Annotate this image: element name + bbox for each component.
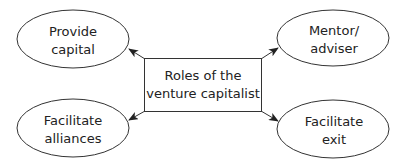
node-mentor-adviser-line1: Mentor/ [309,23,360,38]
node-facilitate-exit-line1: Facilitate [305,114,363,129]
center-title-line1: Roles of the [165,68,242,83]
node-mentor-adviser: Mentor/ adviser [277,10,389,66]
node-provide-capital: Provide capital [17,10,129,68]
node-facilitate-alliances-line1: Facilitate [44,113,102,128]
node-provide-capital-line1: Provide [49,24,97,39]
node-facilitate-alliances-line2: alliances [45,131,102,146]
arrow-to-facilitate-exit [261,111,278,121]
node-facilitate-exit-line2: exit [322,132,346,147]
node-facilitate-exit: Facilitate exit [277,100,389,158]
node-provide-capital-line2: capital [51,42,95,57]
center-title-line2: venture capitalist [146,86,260,101]
arrow-to-mentor-adviser [261,48,278,59]
center-box: Roles of the venture capitalist [145,59,262,112]
node-facilitate-alliances: Facilitate alliances [17,99,129,157]
roles-diagram: Roles of the venture capitalist Provide … [0,0,404,166]
arrow-to-provide-capital [129,49,145,59]
node-mentor-adviser-line2: adviser [310,41,358,56]
arrow-to-facilitate-alliances [129,111,145,120]
